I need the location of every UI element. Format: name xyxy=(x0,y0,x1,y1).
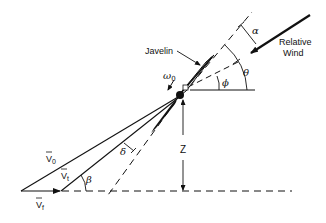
javelin-label: Javelin xyxy=(145,46,173,56)
omega-label: ω0 xyxy=(163,70,176,83)
v0-label: V0 xyxy=(46,152,56,165)
theta-label: θ xyxy=(243,67,249,78)
alpha-label: α xyxy=(252,25,259,36)
vf-label: Vf xyxy=(36,198,44,211)
delta-label: δ xyxy=(120,146,126,157)
vt-label: Vt xyxy=(61,169,69,182)
vt-vector-line xyxy=(61,98,178,191)
relative-wind-label-line1: Relative xyxy=(279,37,312,47)
z-label: Z xyxy=(180,144,186,155)
phi-label: ϕ xyxy=(222,77,229,88)
phi-arc xyxy=(217,76,219,90)
alpha-tick-top xyxy=(238,22,244,27)
diagram-canvas: Javelin ω0 ϕ θ α Relative Wind Z δ β V0 … xyxy=(0,0,326,223)
javelin-icon xyxy=(151,55,214,133)
javelin-leader xyxy=(177,51,200,65)
relative-wind-label-line2: Wind xyxy=(283,48,304,58)
v0-vector-line xyxy=(21,97,178,191)
svg-text:Vf: Vf xyxy=(36,200,44,211)
svg-text:Vt: Vt xyxy=(61,171,69,182)
svg-text:V0: V0 xyxy=(46,154,56,165)
beta-label: β xyxy=(85,174,92,185)
javelin-diagram: Javelin ω0 ϕ θ α Relative Wind Z δ β V0 … xyxy=(0,0,326,223)
